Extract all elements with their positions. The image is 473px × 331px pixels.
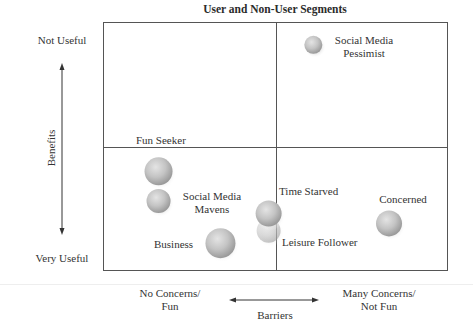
bubble-concerned: [376, 210, 402, 236]
x-axis-title: Barriers: [257, 309, 292, 321]
x-high-label-line2: Not Fun: [361, 300, 398, 312]
label-social-media-mavens-line1: Social Media: [183, 190, 241, 202]
label-fun-seeker: Fun Seeker: [136, 134, 186, 146]
y-low-label: Very Useful: [36, 252, 89, 264]
segment-chart: User and Non-User Segments Not Useful Ve…: [0, 0, 473, 331]
bubble-time-starved: [256, 200, 282, 226]
y-high-label: Not Useful: [38, 34, 87, 46]
chart-title: User and Non-User Segments: [203, 3, 347, 16]
label-social-media-pessimist-line1: Social Media: [335, 34, 393, 46]
x-low-label-line1: No Concerns/: [140, 287, 202, 299]
bubbles-layer: [144, 36, 405, 262]
label-social-media-pessimist-line2: Pessimist: [343, 47, 385, 59]
bubble-fun-seeker: [145, 157, 173, 185]
bubble-social-media-pessimist: [304, 36, 322, 54]
x-high-label-line1: Many Concerns/: [342, 287, 416, 299]
label-concerned: Concerned: [379, 193, 427, 205]
label-leisure-follower: Leisure Follower: [282, 236, 358, 248]
bubble-social-media-mavens: [147, 189, 171, 213]
label-time-starved: Time Starved: [279, 185, 339, 197]
label-business: Business: [154, 238, 193, 250]
bubble-business: [205, 228, 235, 258]
y-axis-title: Benefits: [45, 130, 57, 167]
label-social-media-mavens-line2: Mavens: [195, 203, 230, 215]
x-low-label-line2: Fun: [161, 300, 179, 312]
